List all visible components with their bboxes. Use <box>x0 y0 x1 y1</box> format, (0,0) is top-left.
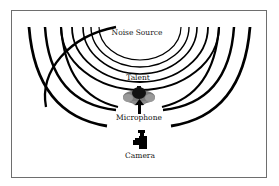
talent-label: Talent <box>126 73 150 82</box>
noise-source-label: Noise Source <box>112 28 163 37</box>
wave-arc-8-left <box>29 27 107 126</box>
wave-arc-6 <box>45 27 116 107</box>
microphone-label: Microphone <box>116 113 162 122</box>
camera-icon <box>133 130 147 149</box>
wave-arc-8-right <box>171 27 250 126</box>
camera-label: Camera <box>125 151 155 160</box>
